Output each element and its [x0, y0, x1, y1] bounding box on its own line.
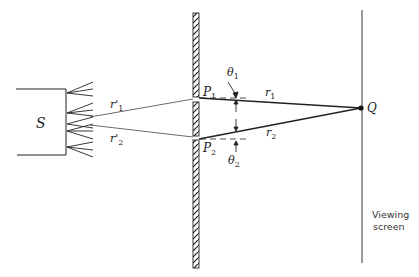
viewing-screen-label-line2: screen: [373, 221, 405, 232]
source-label: S: [36, 115, 46, 131]
theta2-label: θ2: [228, 154, 240, 169]
point-q-dot: [358, 105, 363, 110]
slit-p2-label: P2: [202, 141, 216, 157]
paths-source-to-slits: [90, 99, 193, 137]
source-ray-fans: [67, 82, 93, 157]
barrier-middle-segment: [193, 102, 199, 136]
viewing-screen-label-line1: Viewing: [372, 209, 409, 220]
theta1-label: θ1: [227, 66, 239, 81]
angle-theta2-arrows: [234, 119, 238, 152]
barrier-bottom-segment: [193, 140, 199, 268]
paths-slits-to-screen: [199, 98, 361, 139]
angle-theta1-arrows: [228, 82, 238, 112]
double-slit-diagram: S r'1 r'2 P1 P2 r1: [0, 0, 419, 277]
r2-prime-label: r'2: [110, 132, 123, 147]
barrier: [193, 13, 199, 268]
r1-label: r1: [265, 86, 275, 101]
r1-prime-label: r'1: [110, 98, 123, 113]
dashed-normals: [200, 98, 250, 139]
point-q-label: Q: [367, 101, 377, 115]
barrier-top-segment: [193, 13, 199, 97]
r2-label: r2: [266, 126, 276, 141]
